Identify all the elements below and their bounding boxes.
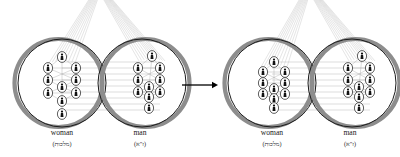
node-head-icon [148, 93, 150, 95]
node-body-icon [159, 79, 162, 83]
node-head-icon [47, 76, 49, 78]
node-body-icon [137, 67, 140, 71]
node-head-icon [151, 52, 153, 54]
node-body-icon [151, 55, 154, 59]
node-body-icon [369, 79, 372, 83]
node-head-icon [262, 79, 264, 81]
woman-sphere-after[interactable]: woman(מלכות) [225, 39, 317, 148]
node-head-icon [61, 83, 63, 85]
node-body-icon [75, 67, 78, 71]
node-body-icon [61, 113, 64, 117]
node-body-icon [273, 98, 276, 102]
node-head-icon [284, 90, 286, 92]
node-body-icon [61, 86, 64, 90]
man-sphere-after[interactable]: man(ז"א) [308, 39, 400, 148]
node-head-icon [369, 76, 371, 78]
node-body-icon [137, 79, 140, 83]
sphere-label-he: (מלכות) [262, 140, 281, 148]
node-head-icon [273, 58, 275, 60]
node-body-icon [284, 71, 287, 75]
node-head-icon [75, 89, 77, 91]
sphere-label-en: man [133, 128, 146, 137]
node-head-icon [148, 83, 150, 85]
node-head-icon [75, 64, 77, 66]
node-body-icon [273, 61, 276, 65]
sphere-label-he: (מלכות) [52, 140, 71, 148]
node-body-icon [47, 67, 50, 71]
node-body-icon [347, 91, 350, 95]
sphere-label-en: woman [261, 128, 284, 137]
node-head-icon [137, 64, 139, 66]
node-head-icon [273, 104, 275, 106]
node-body-icon [148, 107, 151, 111]
node-head-icon [369, 64, 371, 66]
node-head-icon [61, 53, 63, 55]
node-head-icon [347, 76, 349, 78]
group-before: woman(מלכות)man(ז"א) [15, 39, 190, 148]
node-head-icon [358, 83, 360, 85]
node-body-icon [369, 91, 372, 95]
node-head-icon [358, 93, 360, 95]
node-body-icon [47, 79, 50, 83]
node-head-icon [273, 85, 275, 87]
node-body-icon [61, 100, 64, 104]
node-head-icon [284, 68, 286, 70]
node-head-icon [262, 68, 264, 70]
diagram-canvas: woman(מלכות)man(ז"א)woman(מלכות)man(ז"א) [0, 0, 400, 157]
node-body-icon [273, 88, 276, 92]
node-body-icon [358, 96, 361, 100]
sphere-label-en: man [343, 128, 356, 137]
node-body-icon [284, 82, 287, 86]
node-body-icon [75, 92, 78, 96]
node-head-icon [61, 97, 63, 99]
node-head-icon [361, 52, 363, 54]
node-head-icon [47, 89, 49, 91]
node-head-icon [262, 90, 264, 92]
woman-sphere-before[interactable]: woman(מלכות) [15, 39, 107, 148]
node-body-icon [159, 91, 162, 95]
node-head-icon [75, 76, 77, 78]
node-head-icon [347, 64, 349, 66]
node-body-icon [358, 107, 361, 111]
arrow-head [212, 82, 218, 88]
node-head-icon [369, 88, 371, 90]
node-head-icon [347, 88, 349, 90]
node-head-icon [358, 104, 360, 106]
node-body-icon [61, 56, 64, 60]
node-body-icon [369, 67, 372, 71]
node-body-icon [262, 93, 265, 97]
node-body-icon [262, 71, 265, 75]
node-body-icon [347, 79, 350, 83]
node-body-icon [361, 55, 364, 59]
node-head-icon [137, 88, 139, 90]
node-head-icon [284, 79, 286, 81]
sphere-label-he: (ז"א) [344, 140, 356, 148]
man-sphere-before[interactable]: man(ז"א) [98, 39, 190, 148]
node-head-icon [148, 104, 150, 106]
node-body-icon [137, 91, 140, 95]
node-head-icon [159, 64, 161, 66]
node-body-icon [273, 107, 276, 111]
node-head-icon [47, 64, 49, 66]
node-body-icon [358, 86, 361, 90]
node-body-icon [284, 93, 287, 97]
group-after: woman(מלכות)man(ז"א) [225, 39, 400, 148]
node-head-icon [159, 88, 161, 90]
kabbalah-diagram: woman(מלכות)man(ז"א)woman(מלכות)man(ז"א) [0, 0, 400, 157]
node-body-icon [148, 96, 151, 100]
node-body-icon [262, 82, 265, 86]
node-body-icon [148, 86, 151, 90]
node-head-icon [159, 76, 161, 78]
sphere-label-he: (ז"א) [134, 140, 146, 148]
node-body-icon [347, 67, 350, 71]
node-body-icon [47, 92, 50, 96]
node-head-icon [61, 110, 63, 112]
node-head-icon [137, 76, 139, 78]
node-body-icon [159, 67, 162, 71]
node-head-icon [273, 95, 275, 97]
node-body-icon [75, 79, 78, 83]
sphere-label-en: woman [51, 128, 74, 137]
